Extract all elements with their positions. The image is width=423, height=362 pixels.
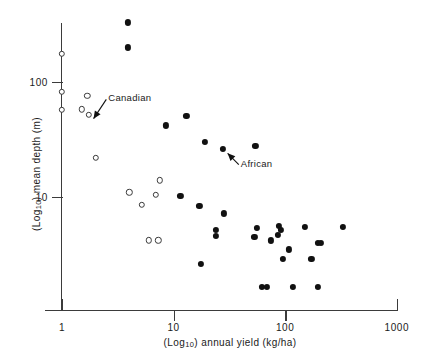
annotation-arrow-african [0,0,423,362]
scatter-plot-figure: (Log10) mean depth (m) (Log10) annual yi… [0,0,423,362]
